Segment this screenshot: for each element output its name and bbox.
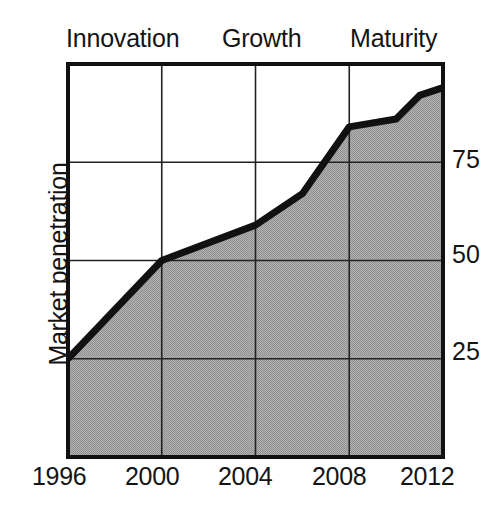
plot-area: [0, 0, 501, 515]
market-penetration-chart-figure: Innovation Growth Maturity Market penetr…: [0, 0, 501, 515]
